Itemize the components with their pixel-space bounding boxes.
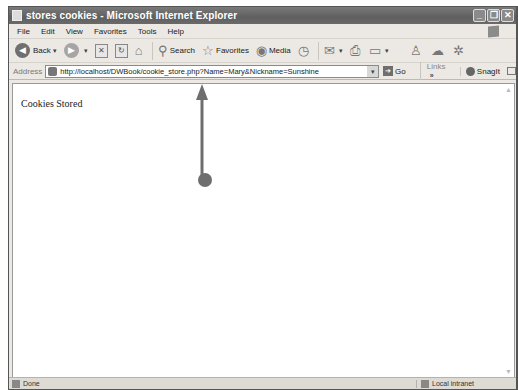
toolbar-separator (318, 42, 319, 60)
media-icon: ◉ (256, 44, 267, 57)
minimize-button[interactable]: _ (473, 9, 486, 22)
menu-view[interactable]: View (66, 27, 83, 36)
edit-button[interactable]: ▭ ▾ (369, 44, 389, 57)
history-button[interactable]: ◷ (298, 44, 311, 57)
print-icon: ⎙ (350, 44, 360, 57)
close-button[interactable]: ✕ (501, 9, 514, 22)
mail-dropdown-icon[interactable]: ▾ (339, 47, 343, 55)
search-icon: ⚲ (158, 44, 168, 57)
mail-icon: ✉ (324, 44, 335, 57)
mail-button[interactable]: ✉ ▾ (324, 44, 343, 57)
address-dropdown-icon[interactable]: ▾ (367, 66, 378, 77)
research-button[interactable]: ✲ (453, 44, 466, 57)
back-dropdown-icon[interactable]: ▾ (53, 47, 57, 55)
restore-button[interactable]: ❐ (487, 9, 500, 22)
favorites-button[interactable]: ☆ Favorites (202, 44, 249, 57)
snagit-icon (466, 67, 475, 76)
forward-dropdown-icon[interactable]: ▾ (84, 47, 88, 55)
messenger-icon: ♙ (410, 44, 422, 57)
toolbar-separator (152, 42, 153, 60)
media-label: Media (269, 46, 291, 55)
discuss-bubble-icon: ☁ (431, 44, 444, 57)
stop-icon: ✕ (95, 44, 108, 58)
favorites-star-icon: ☆ (202, 44, 214, 57)
research-icon: ✲ (453, 44, 464, 57)
browser-window: stores cookies - Microsoft Internet Expl… (8, 6, 518, 390)
search-label: Search (170, 46, 195, 55)
menu-edit[interactable]: Edit (41, 27, 55, 36)
window-title: stores cookies - Microsoft Internet Expl… (26, 10, 237, 21)
address-input[interactable]: http://localhost/DWBook/cookie_store.php… (45, 65, 379, 78)
links-chevron-icon: » (430, 72, 434, 79)
messenger-button[interactable]: ♙ (410, 44, 424, 57)
home-icon: ⌂ (135, 44, 143, 57)
home-button[interactable]: ⌂ (135, 44, 145, 57)
security-zone: Local intranet (432, 380, 474, 387)
standard-toolbar: ◀ Back ▾ ▶ ▾ ✕ ↻ ⌂ ⚲ Search ☆ Favorites … (9, 39, 516, 63)
search-button[interactable]: ⚲ Search (158, 44, 195, 57)
snagit-label: SnagIt (477, 67, 500, 76)
go-arrow-icon: ➔ (383, 66, 393, 76)
page-icon (48, 67, 57, 76)
page-content: Cookies Stored ▲ ▼ (12, 83, 515, 378)
menu-file[interactable]: File (17, 27, 30, 36)
discuss-button[interactable]: ☁ (431, 44, 446, 57)
print-button[interactable]: ⎙ (350, 44, 362, 57)
go-label: Go (395, 67, 406, 76)
menu-tools[interactable]: Tools (138, 27, 157, 36)
favorites-label: Favorites (216, 46, 249, 55)
history-icon: ◷ (298, 44, 309, 57)
cookies-stored-text: Cookies Stored (21, 98, 82, 109)
address-bar: Address http://localhost/DWBook/cookie_s… (9, 63, 516, 80)
media-button[interactable]: ◉ Media (256, 44, 291, 57)
back-label: Back (33, 46, 51, 55)
stop-button[interactable]: ✕ (95, 44, 108, 58)
menu-bar: File Edit View Favorites Tools Help (9, 24, 516, 39)
intranet-zone-icon (421, 380, 429, 388)
menu-favorites[interactable]: Favorites (94, 27, 127, 36)
forward-arrow-icon: ▶ (64, 43, 79, 58)
scroll-down-arrow-icon[interactable]: ▼ (505, 368, 512, 375)
windows-logo-icon (488, 25, 499, 37)
forward-button[interactable]: ▶ ▾ (64, 43, 88, 58)
status-text: Done (23, 380, 40, 387)
edit-icon: ▭ (369, 44, 381, 57)
page-done-icon (12, 380, 20, 388)
address-label: Address (13, 67, 42, 76)
back-arrow-icon: ◀ (15, 43, 30, 58)
links-label: Links (427, 62, 446, 71)
url-text[interactable]: http://localhost/DWBook/cookie_store.php… (60, 67, 318, 76)
title-bar: stores cookies - Microsoft Internet Expl… (9, 7, 516, 24)
menu-help[interactable]: Help (167, 27, 183, 36)
ie-app-icon (12, 10, 22, 21)
go-button[interactable]: ➔ Go (383, 66, 406, 76)
refresh-button[interactable]: ↻ (115, 44, 128, 58)
refresh-icon: ↻ (115, 44, 128, 58)
edit-dropdown-icon[interactable]: ▾ (385, 47, 389, 55)
status-bar: Done Local intranet (9, 377, 516, 389)
back-button[interactable]: ◀ Back ▾ (15, 43, 57, 58)
snagit-button[interactable]: SnagIt (460, 67, 516, 76)
scroll-up-arrow-icon[interactable]: ▲ (505, 86, 512, 93)
snagit-window-icon[interactable] (507, 67, 516, 75)
links-button[interactable]: Links » (420, 62, 452, 80)
